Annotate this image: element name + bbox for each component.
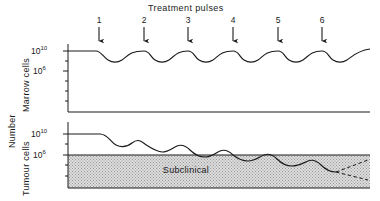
panel-marrow <box>63 44 370 112</box>
pulse-label-6: 6 <box>320 16 325 25</box>
pulse-label-3: 3 <box>186 16 191 25</box>
figure-semilog-treatment-pulses: Treatment pulses 1 2 3 4 5 6 1010 106 10… <box>0 0 380 201</box>
tumour-ytick-label-1e6: 106 <box>33 151 46 160</box>
marrow-ytick-label-1e6: 106 <box>33 67 46 76</box>
subclinical-region <box>68 155 370 188</box>
marrow-tick-exponent-1e6: 6 <box>42 65 45 71</box>
tumour-ytick-label-1e10: 1010 <box>31 130 47 139</box>
tumour-tick-exponent-1e10: 10 <box>40 128 47 134</box>
pulse-label-4: 4 <box>231 16 236 25</box>
pulse-label-5: 5 <box>276 16 281 25</box>
marrow-tick-exponent-1e10: 10 <box>40 45 47 51</box>
axis-title-number: Number <box>8 114 17 148</box>
treatment-pulse-arrows <box>99 27 322 41</box>
pulse-label-2: 2 <box>142 16 147 25</box>
pulse-label-1: 1 <box>97 16 102 25</box>
marrow-ytick-label-1e10: 1010 <box>31 47 47 56</box>
plot-title: Treatment pulses <box>148 4 224 13</box>
subclinical-region-label: Subclinical <box>163 166 209 175</box>
axis-title-marrow-cells: Marrow cells <box>22 58 31 112</box>
tumour-tick-exponent-1e6: 6 <box>42 149 45 155</box>
panel-tumour <box>63 122 370 188</box>
axis-title-tumour-cells: Tumour cells <box>22 141 31 196</box>
